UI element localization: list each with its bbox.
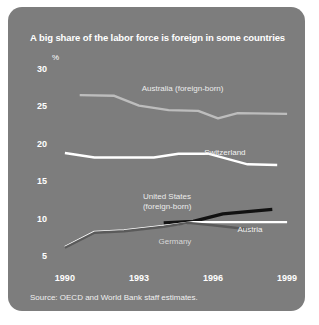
y-axis-tick-25: 25: [25, 101, 47, 111]
figure-container: A big share of the labor force is foreig…: [0, 0, 319, 325]
y-axis-tick-5: 5: [25, 251, 47, 261]
y-axis-tick-30: 30: [25, 64, 47, 74]
chart-panel: A big share of the labor force is foreig…: [8, 7, 305, 311]
x-axis-tick-1999: 1999: [265, 273, 305, 283]
x-axis-tick-1996: 1996: [191, 273, 235, 283]
series-label-1: Switzerland: [204, 148, 245, 158]
series-line-2: [164, 209, 273, 223]
series-line-0: [80, 95, 287, 118]
y-axis-tick-15: 15: [25, 176, 47, 186]
y-axis-tick-20: 20: [25, 139, 47, 149]
source-note: Source: OECD and World Bank staff estima…: [30, 293, 198, 302]
x-axis-tick-1993: 1993: [117, 273, 161, 283]
x-axis-tick-1990: 1990: [43, 273, 87, 283]
y-axis-tick-10: 10: [25, 214, 47, 224]
line-chart-plot: [8, 7, 305, 311]
series-label-0: Australia (foreign-born): [142, 84, 224, 94]
series-label-3: Austria: [238, 225, 263, 235]
series-label-4: Germany: [158, 237, 191, 247]
series-label-2: United States(foreign-born): [143, 192, 191, 211]
